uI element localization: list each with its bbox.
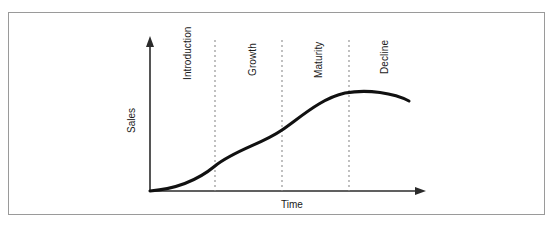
y-axis-arrowhead	[146, 36, 154, 47]
y-axis-title: Sales	[127, 108, 137, 133]
stage-label-maturity: Maturity	[314, 42, 324, 78]
x-axis-arrowhead	[415, 187, 426, 195]
stage-label-introduction: Introduction	[183, 27, 193, 80]
product-life-cycle-figure: Introduction Growth Maturity Decline Sal…	[0, 0, 553, 230]
x-axis-title: Time	[281, 200, 303, 210]
stage-label-growth: Growth	[248, 43, 258, 76]
life-cycle-chart	[0, 0, 553, 230]
sales-curve	[150, 91, 409, 191]
stage-label-decline: Decline	[380, 40, 390, 74]
